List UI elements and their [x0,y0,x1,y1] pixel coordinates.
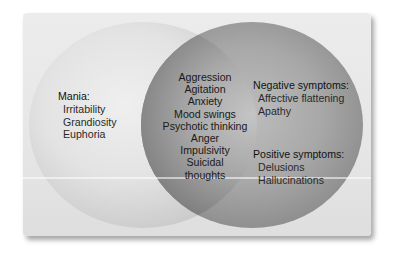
venn-diagram-panel: Mania: Irritability Grandiosity Euphoria… [23,13,371,236]
negative-symptom-item: Affective flattening [253,92,349,105]
mania-item: Grandiosity [58,116,117,129]
shared-item: thoughts [141,169,269,181]
negative-symptoms-heading: Negative symptoms: [253,79,349,92]
shared-item: Suicidal [141,156,269,168]
shared-item: Aggression [141,71,269,83]
mania-item: Euphoria [58,128,117,141]
right-label-positive-symptoms: Positive symptoms: Delusions Hallucinati… [253,148,344,186]
mania-heading: Mania: [58,90,117,103]
mania-item: Irritability [58,103,117,116]
shared-item: Mood swings [141,108,269,120]
positive-symptom-item: Delusions [253,161,344,174]
left-label-mania: Mania: Irritability Grandiosity Euphoria [58,90,117,141]
positive-symptom-item: Hallucinations [253,174,344,187]
right-label-negative-symptoms: Negative symptoms: Affective flattening … [253,79,349,117]
overlap-label-shared-symptoms: Aggression Agitation Anxiety Mood swings… [141,71,269,181]
shared-item: Agitation [141,83,269,95]
positive-symptoms-heading: Positive symptoms: [253,148,344,161]
negative-symptom-item: Apathy [253,105,349,118]
shared-item: Anxiety [141,95,269,107]
shared-item: Psychotic thinking [141,120,269,132]
shared-item: Impulsivity [141,144,269,156]
shared-item: Anger [141,132,269,144]
